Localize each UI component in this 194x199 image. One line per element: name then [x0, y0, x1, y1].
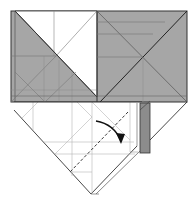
top-panel	[11, 11, 187, 102]
bottom-diamond	[14, 102, 187, 194]
origami-fold-diagram	[0, 0, 194, 199]
outer-edge-right	[150, 102, 187, 140]
right-flap-fill	[140, 103, 150, 153]
